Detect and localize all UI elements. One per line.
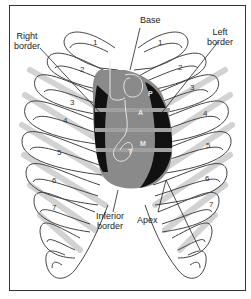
- svg-text:6: 6: [52, 176, 57, 185]
- costal-margins: [75, 205, 178, 270]
- svg-text:3: 3: [190, 83, 195, 92]
- label-left-border: Left border: [207, 27, 233, 47]
- svg-text:1: 1: [93, 38, 98, 47]
- valve-label-aortic: A: [138, 109, 143, 116]
- label-right-border-line2: border: [14, 41, 40, 51]
- label-inferior-border-line1: Inferior: [96, 211, 124, 221]
- label-right-border-line1: Right: [14, 31, 40, 41]
- svg-text:1: 1: [158, 38, 163, 47]
- svg-text:5: 5: [57, 148, 62, 157]
- label-apex-text: Apex: [137, 215, 158, 225]
- label-apex: Apex: [137, 215, 158, 225]
- label-inferior-border-line2: border: [96, 221, 124, 231]
- label-base: Base: [140, 15, 161, 25]
- svg-text:5: 5: [206, 141, 211, 150]
- svg-text:7: 7: [209, 200, 214, 209]
- svg-text:7: 7: [52, 203, 57, 212]
- svg-text:2: 2: [178, 63, 183, 72]
- valve-label-tricuspid: T: [128, 148, 133, 155]
- label-left-border-line1: Left: [207, 27, 233, 37]
- svg-text:3: 3: [70, 98, 75, 107]
- svg-text:2: 2: [80, 65, 85, 74]
- label-left-border-line2: border: [207, 37, 233, 47]
- valve-label-pulmonic: P: [148, 90, 153, 97]
- svg-text:6: 6: [205, 174, 210, 183]
- label-right-border: Right border: [14, 31, 40, 51]
- svg-text:4: 4: [203, 109, 208, 118]
- svg-text:4: 4: [63, 116, 68, 125]
- label-inferior-border: Inferior border: [96, 211, 124, 231]
- label-base-text: Base: [140, 15, 161, 25]
- heart: P A M T: [93, 60, 173, 188]
- valve-label-mitral: M: [140, 140, 146, 147]
